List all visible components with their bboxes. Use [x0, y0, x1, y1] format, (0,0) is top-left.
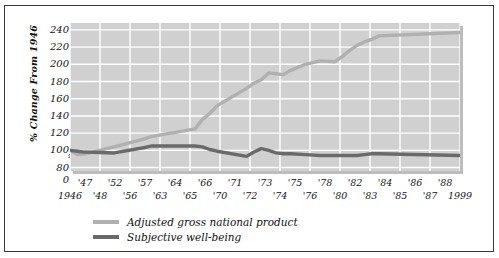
y-tick-label: 100 [35, 145, 69, 155]
x-tick-label: '88 [438, 177, 453, 188]
x-tick-label: '63 [153, 190, 168, 201]
x-tick-label: '56 [123, 190, 138, 201]
y-tick-label: 180 [35, 77, 69, 87]
x-tick-label: '74 [273, 190, 288, 201]
x-tick-label: '78 [318, 177, 333, 188]
legend-label: Subjective well-being [127, 231, 241, 243]
plot-area [70, 23, 460, 171]
legend-item: Adjusted gross national product [93, 214, 423, 229]
x-tick-label: '87 [423, 190, 438, 201]
y-axis-tick-labels: 240220200180160140120100800 [31, 6, 69, 253]
x-tick-label: '66 [198, 177, 213, 188]
chart-legend: Adjusted gross national productSubjectiv… [93, 214, 423, 244]
x-tick-label: '73 [258, 177, 273, 188]
x-tick-label: '85 [393, 190, 408, 201]
x-tick-label: '57 [138, 177, 153, 188]
x-tick-label: '70 [213, 190, 228, 201]
y-tick-label: 120 [35, 128, 69, 138]
y-tick-label: 240 [35, 25, 69, 35]
chart-figure: % Change From 1946 240220200180160140120… [4, 5, 494, 252]
x-tick-label: 1999 [448, 190, 472, 201]
y-tick-label: 220 [35, 42, 69, 52]
x-tick-label: '65 [183, 190, 198, 201]
legend-label: Adjusted gross national product [127, 216, 298, 228]
x-tick-label: '76 [303, 190, 318, 201]
y-tick-label: 160 [35, 94, 69, 104]
legend-swatch-icon [93, 220, 119, 224]
y-tick-label: 140 [35, 111, 69, 121]
x-axis-tick-labels: 1946'48'56'63'65'70'72'74'76'80'83'85'87… [5, 174, 495, 208]
x-tick-label: '80 [333, 190, 348, 201]
x-tick-label: '71 [228, 177, 243, 188]
x-tick-label: '64 [168, 177, 183, 188]
x-tick-label: '72 [243, 190, 258, 201]
x-tick-label: '75 [288, 177, 303, 188]
plot-svg [70, 23, 460, 171]
x-tick-label: '82 [348, 177, 363, 188]
series-line-1 [70, 146, 460, 156]
y-tick-label: 200 [35, 59, 69, 69]
x-tick-label: 1946 [58, 190, 82, 201]
series-line-0 [70, 32, 460, 154]
legend-swatch-icon [93, 235, 119, 239]
chart-canvas: % Change From 1946 240220200180160140120… [5, 6, 495, 253]
x-tick-label: '52 [108, 177, 123, 188]
x-tick-label: '48 [93, 190, 108, 201]
legend-item: Subjective well-being [93, 229, 423, 244]
x-tick-label: '84 [378, 177, 393, 188]
x-tick-label: '47 [78, 177, 93, 188]
y-tick-label: 80 [35, 163, 69, 173]
x-tick-label: '86 [408, 177, 423, 188]
x-tick-label: '83 [363, 190, 378, 201]
